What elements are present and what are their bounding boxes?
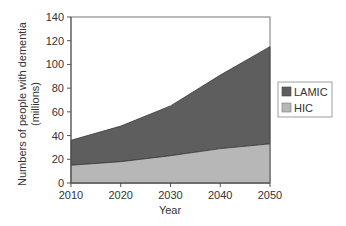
x-tick-label: 2020 (109, 189, 133, 201)
legend: LAMIC HIC (278, 82, 332, 117)
x-tick-label: 2030 (158, 189, 182, 201)
y-axis-title-line1: Numbers of people with dementia (16, 21, 28, 186)
dementia-area-chart: 020406080100120140 20102020203020402050 … (0, 0, 346, 226)
y-axis-ticks: 020406080100120140 (46, 11, 71, 189)
x-axis-ticks: 20102020203020402050 (59, 183, 282, 201)
y-tick-label: 0 (58, 177, 64, 189)
x-axis-title: Year (159, 204, 182, 216)
y-axis-title-line2: (millions) (29, 82, 41, 126)
legend-label-lamic: LAMIC (294, 86, 328, 98)
x-tick-label: 2050 (258, 189, 282, 201)
y-tick-label: 140 (46, 11, 64, 23)
legend-swatch-lamic (282, 87, 291, 96)
y-tick-label: 60 (52, 106, 64, 118)
y-tick-label: 100 (46, 58, 64, 70)
x-tick-label: 2040 (208, 189, 232, 201)
legend-label-hic: HIC (294, 102, 313, 114)
x-tick-label: 2010 (59, 189, 83, 201)
y-tick-label: 80 (52, 82, 64, 94)
legend-swatch-hic (282, 103, 291, 112)
y-tick-label: 20 (52, 153, 64, 165)
y-tick-label: 40 (52, 130, 64, 142)
y-tick-label: 120 (46, 35, 64, 47)
